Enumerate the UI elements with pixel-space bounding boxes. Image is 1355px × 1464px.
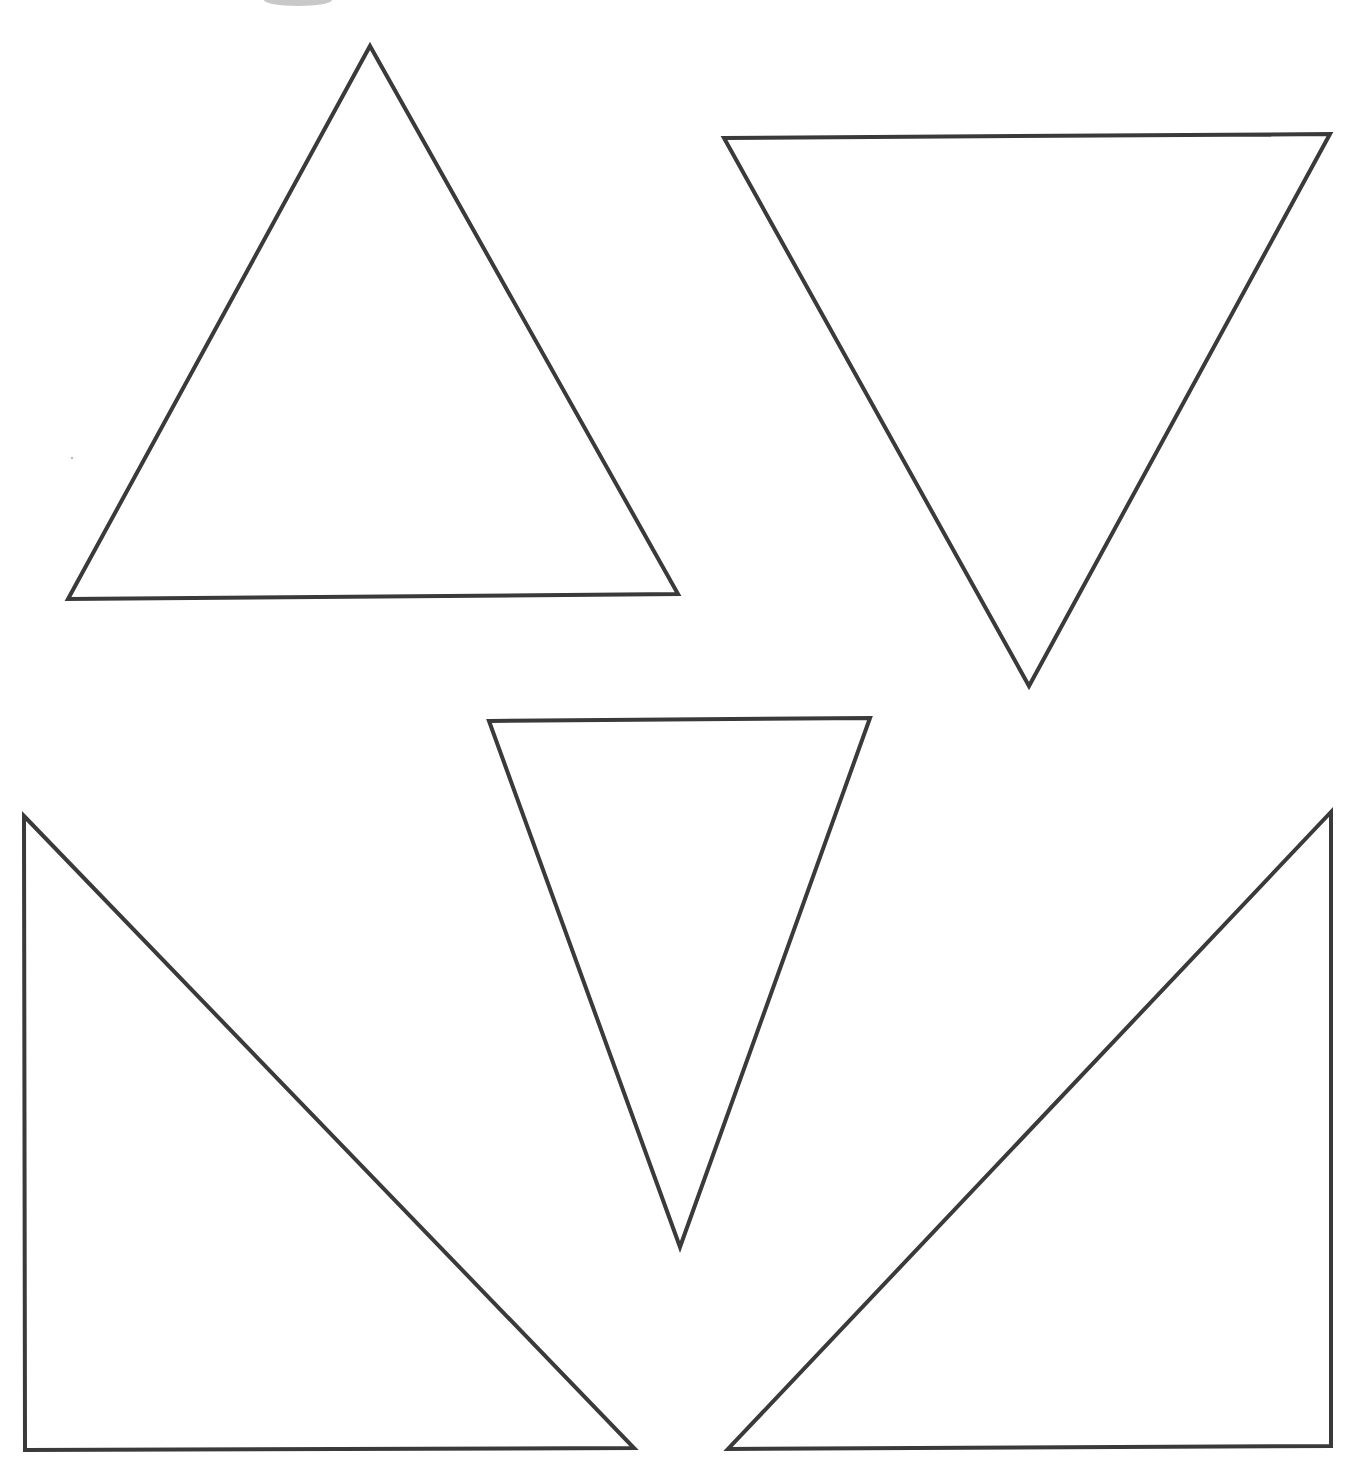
triangle-upright (68, 46, 678, 599)
top-blob-decoration (264, 0, 332, 6)
stray-dot-decoration (71, 457, 73, 459)
triangle-inverted-narrow (489, 718, 870, 1247)
right-triangle-left (24, 816, 634, 1450)
diagram-canvas (0, 0, 1355, 1464)
triangle-inverted-large (724, 134, 1330, 686)
right-triangle-right (728, 812, 1331, 1449)
